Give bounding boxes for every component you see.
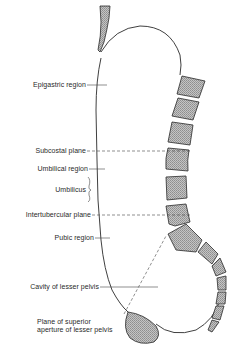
vertebral-column [166,76,226,332]
label-intertubercular-plane: Intertubercular plane [0,211,91,219]
coccyx-2 [212,306,224,320]
xiphoid-process [98,6,110,52]
coccyx-1 [216,292,226,304]
anatomy-figure: Epigastric region Subcostal plane Umbili… [0,0,240,352]
label-plane-superior-aperture-line2: aperture of lesser pelvis [37,326,113,334]
diagram-drawing [0,0,240,352]
label-epigastric-region: Epigastric region [0,81,86,89]
superior-aperture-line [124,236,166,314]
sacrum-s2 [198,242,218,264]
vertebra-t12 [177,76,205,98]
sacrum [168,224,202,252]
vertebra-l1 [172,98,199,120]
vertebra-l4 [166,176,187,200]
label-subcostal-plane: Subcostal plane [0,147,86,155]
coccyx-3 [208,320,219,332]
label-plane-superior-aperture-line1: Plane of superior [37,318,91,326]
label-cavity-lesser-pelvis: Cavity of lesser pelvis [0,283,99,291]
pubic-symphysis [125,312,158,343]
vertebra-l3 [166,148,189,171]
sacrum-s4 [217,276,226,290]
umbilicus-brace [88,177,91,202]
label-umbilical-region: Umbilical region [0,165,88,173]
vertebra-l2 [168,122,193,145]
label-pubic-region: Pubic region [0,234,94,242]
label-umbilicus: Umbilicus [0,186,86,194]
